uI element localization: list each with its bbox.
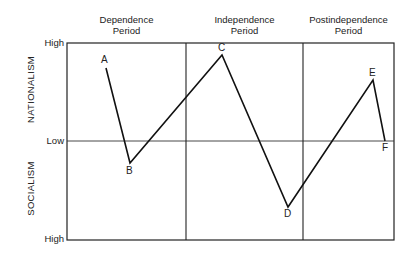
point-label-b: B (126, 165, 133, 176)
plot-area (0, 0, 415, 256)
plot-frame (67, 43, 394, 240)
point-label-d: D (284, 208, 291, 219)
point-label-e: E (369, 67, 376, 78)
point-label-a: A (101, 54, 108, 65)
point-label-c: C (218, 42, 225, 53)
trajectory-line (106, 55, 385, 207)
point-label-f: F (382, 142, 388, 153)
